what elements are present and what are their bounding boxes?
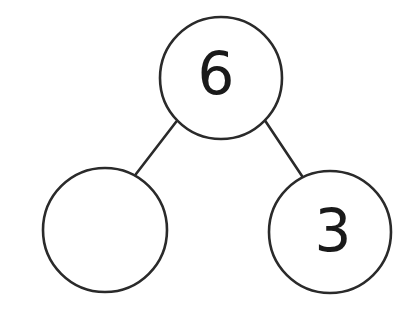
number-bond-diagram: 6 3: [0, 0, 406, 317]
whole-value-label: 6: [198, 40, 235, 108]
connector-whole-to-left-part: [136, 122, 176, 174]
part-left-circle-empty[interactable]: [43, 168, 167, 292]
part-right-value-label: 3: [315, 197, 352, 265]
connector-whole-to-right-part: [264, 119, 302, 176]
number-bond-canvas: 6 3: [0, 0, 406, 317]
